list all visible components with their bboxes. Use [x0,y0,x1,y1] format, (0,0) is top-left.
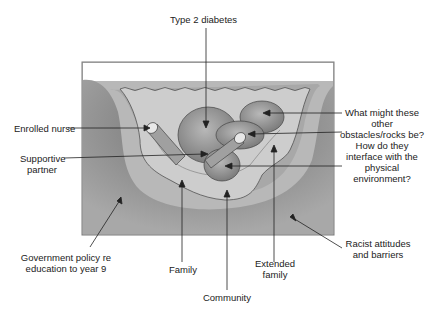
label-type2-diabetes: Type 2 diabetes [170,14,237,25]
label-family: Family [166,264,200,275]
label-racist-attitudes: Racist attitudes and barriers [340,238,416,260]
label-community: Community [200,292,254,303]
label-question: What might these other obstacles/rocks b… [340,107,424,184]
label-enrolled-nurse: Enrolled nurse [14,123,75,134]
label-supportive-partner: Supportive partner [20,153,64,175]
river-diagram: Type 2 diabetes Enrolled nurse Supportiv… [0,0,425,311]
label-extended-family: Extended family [252,258,298,280]
label-government-policy: Government policy re education to year 9 [14,252,118,274]
